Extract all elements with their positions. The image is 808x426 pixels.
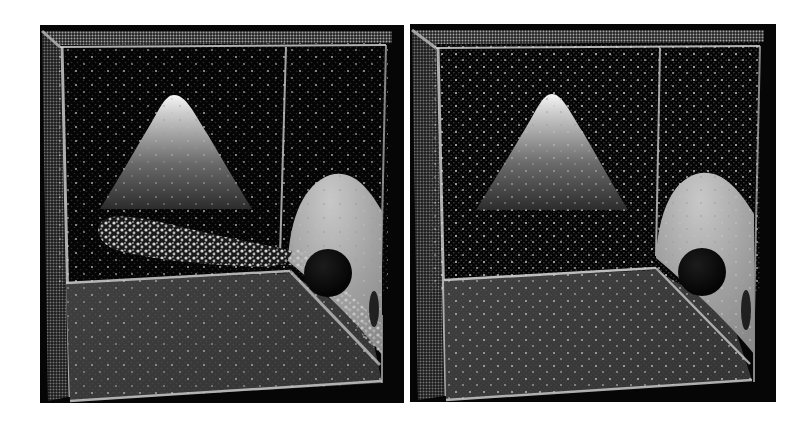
simulation-figure: [0, 0, 808, 426]
panel-margin: [764, 24, 776, 402]
render-left-canvas: [40, 25, 404, 403]
render-panel-right: [410, 24, 776, 402]
render-right-canvas: [410, 24, 776, 402]
panel-margin: [392, 25, 404, 403]
render-panel-left: [40, 25, 404, 403]
